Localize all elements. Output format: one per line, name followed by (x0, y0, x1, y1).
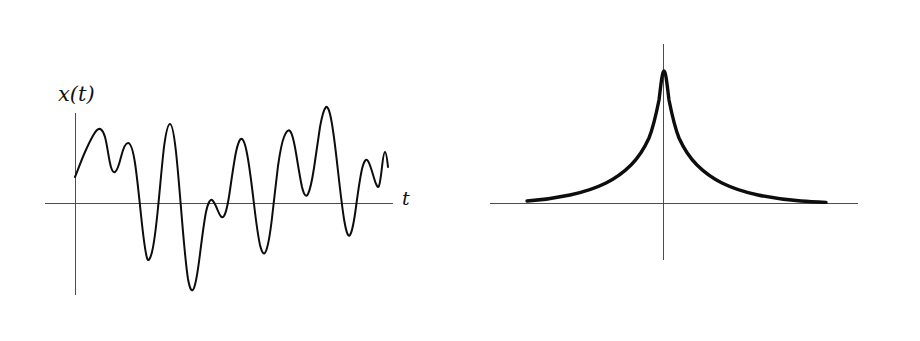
signal-x-axis-label: t (402, 189, 410, 208)
acf-plot-svg (460, 0, 920, 341)
panel-random-signal: x(t) t (0, 0, 460, 341)
panel-autocorrelation: ⟨x(t)x(0)⟩ t (460, 0, 920, 341)
signal-y-axis-label: x(t) (58, 84, 95, 105)
physics-figure: x(t) t ⟨x(t)x(0)⟩ t (0, 0, 920, 341)
signal-plot-svg (0, 0, 460, 341)
acf-trace (527, 71, 826, 202)
signal-trace (75, 107, 388, 290)
